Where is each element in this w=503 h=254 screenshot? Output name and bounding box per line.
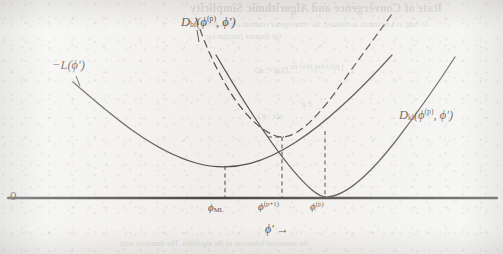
label-kl-base: D (399, 108, 408, 122)
tick-label-phi-p: ϕ(p) (310, 200, 324, 212)
label-negl-base: −L( (52, 58, 72, 72)
bound-label-leader (197, 30, 199, 42)
x-axis-label: ϕ′ → (265, 222, 289, 237)
label-bf-base: D (181, 15, 190, 29)
figure-page: Rate of Convergence and Algorithmic Simp… (0, 0, 503, 254)
label-bf-tail: , ϕ′) (216, 15, 236, 29)
tick-label-phi-ml: ϕML (208, 201, 224, 213)
curve-bound-function (196, 14, 392, 137)
label-bound-function: Dbf(ϕ(p), ϕ′) (181, 14, 236, 30)
label-bf-superscript: (p) (207, 14, 216, 23)
tick-p1-superscript: (p+1) (264, 200, 279, 207)
label-bf-args: (ϕ (196, 15, 207, 29)
curve-neg-log-likelihood (73, 55, 392, 167)
label-kl-divergence: Dkl(ϕ(p), ϕ′) (399, 107, 453, 123)
label-kl-tail: , ϕ′) (434, 108, 454, 122)
label-kl-args: (ϕ (414, 108, 425, 122)
label-zero-baseline: 0 (10, 188, 17, 204)
label-kl-superscript: (p) (425, 107, 434, 116)
em-bound-diagram (0, 0, 503, 254)
tick-label-phi-p-plus-1: ϕ(p+1) (258, 200, 279, 212)
curve-kl-divergence (216, 55, 455, 197)
tick-ml-subscript: ML (214, 206, 224, 213)
label-negl-arg: ϕ′ (72, 58, 81, 72)
label-negl-close: ) (81, 58, 85, 72)
tick-p-superscript: (p) (316, 200, 324, 207)
label-neg-log-likelihood: −L(ϕ′) (52, 58, 85, 73)
